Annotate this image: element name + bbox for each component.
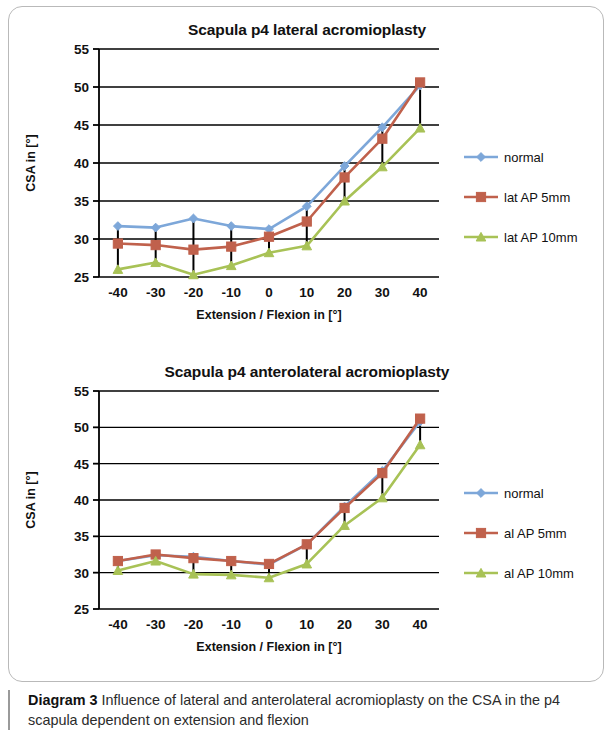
data-point-marker-square bbox=[302, 540, 311, 549]
data-point-marker-square bbox=[302, 217, 311, 226]
data-point-marker-square bbox=[189, 245, 198, 254]
data-point-marker-square bbox=[476, 528, 485, 537]
x-tick-label: -40 bbox=[108, 285, 128, 300]
x-tick-label: 20 bbox=[337, 617, 352, 632]
chart-2-plot-area: 25303540455055CSA in [°]-40-30-20-100102… bbox=[9, 381, 605, 671]
legend-label: lat AP 10mm bbox=[504, 230, 577, 245]
data-point-marker-square bbox=[416, 414, 425, 423]
x-axis-ticks: -40-30-20-10010203040 bbox=[108, 617, 427, 632]
x-axis-title: Extension / Flexion in [°] bbox=[196, 308, 341, 322]
x-axis-title: Extension / Flexion in [°] bbox=[196, 640, 341, 654]
legend: normalal AP 5mmal AP 10mm bbox=[464, 486, 574, 581]
y-tick-label: 55 bbox=[74, 42, 90, 57]
y-tick-label: 50 bbox=[74, 420, 89, 435]
series-markers bbox=[113, 414, 425, 582]
data-point-marker-diamond bbox=[189, 214, 198, 223]
data-point-marker-square bbox=[113, 239, 122, 248]
chart-lateral-acromioplasty: Scapula p4 lateral acromioplasty 2530354… bbox=[9, 9, 605, 349]
y-tick-label: 35 bbox=[74, 194, 90, 209]
x-tick-label: 20 bbox=[337, 285, 352, 300]
figure-card: Scapula p4 lateral acromioplasty 2530354… bbox=[8, 6, 604, 682]
legend-label: al AP 10mm bbox=[504, 566, 574, 581]
series-line-normal bbox=[118, 85, 420, 229]
x-tick-label: 0 bbox=[265, 285, 273, 300]
legend-label: normal bbox=[504, 486, 544, 501]
x-tick-label: -30 bbox=[146, 285, 166, 300]
x-tick-label: 30 bbox=[375, 285, 390, 300]
y-tick-label: 45 bbox=[74, 457, 90, 472]
series-line-al-ap-10mm bbox=[118, 445, 420, 578]
x-tick-label: 0 bbox=[265, 617, 273, 632]
data-point-marker-square bbox=[227, 242, 236, 251]
data-point-marker-square bbox=[264, 232, 273, 241]
y-axis-title: CSA in [°] bbox=[24, 471, 38, 528]
legend: normallat AP 5mmlat AP 10mm bbox=[464, 150, 577, 245]
data-point-marker-square bbox=[416, 78, 425, 87]
data-point-marker-diamond bbox=[477, 489, 486, 498]
x-tick-label: 40 bbox=[413, 617, 428, 632]
legend-label: normal bbox=[504, 150, 544, 165]
x-tick-label: -10 bbox=[221, 285, 241, 300]
error-bars bbox=[118, 419, 420, 578]
data-point-marker-triangle bbox=[415, 440, 425, 449]
chart-2-svg: 25303540455055CSA in [°]-40-30-20-100102… bbox=[9, 381, 605, 671]
data-point-marker-diamond bbox=[227, 222, 236, 231]
y-tick-label: 30 bbox=[74, 566, 89, 581]
data-point-marker-square bbox=[189, 554, 198, 563]
x-tick-label: -10 bbox=[221, 617, 241, 632]
data-point-marker-square bbox=[264, 559, 273, 568]
x-tick-label: 30 bbox=[375, 617, 390, 632]
data-point-marker-square bbox=[378, 134, 387, 143]
data-point-marker-diamond bbox=[477, 153, 486, 162]
x-tick-label: 10 bbox=[299, 617, 314, 632]
data-point-marker-square bbox=[113, 556, 122, 565]
x-tick-label: -20 bbox=[184, 617, 204, 632]
y-tick-label: 45 bbox=[74, 118, 90, 133]
x-tick-label: 40 bbox=[413, 285, 428, 300]
data-point-marker-square bbox=[227, 556, 236, 565]
data-point-marker-square bbox=[151, 240, 160, 249]
x-tick-label: -20 bbox=[184, 285, 204, 300]
x-axis-ticks: -40-30-20-10010203040 bbox=[108, 285, 427, 300]
data-point-marker-square bbox=[378, 469, 387, 478]
chart-anterolateral-acromioplasty: Scapula p4 anterolateral acromioplasty 2… bbox=[9, 357, 605, 675]
data-point-marker-diamond bbox=[151, 223, 160, 232]
y-axis-title: CSA in [°] bbox=[24, 134, 38, 191]
series-line-normal bbox=[118, 422, 420, 565]
figure-caption: Diagram 3 Influence of lateral and anter… bbox=[8, 690, 604, 730]
chart-2-title: Scapula p4 anterolateral acromioplasty bbox=[9, 363, 605, 381]
x-tick-label: -30 bbox=[146, 617, 166, 632]
y-tick-label: 50 bbox=[74, 80, 89, 95]
caption-label: Diagram 3 bbox=[28, 692, 98, 708]
caption-text: Influence of lateral and anterolateral a… bbox=[28, 692, 560, 728]
y-tick-label: 40 bbox=[74, 156, 89, 171]
chart-1-title: Scapula p4 lateral acromioplasty bbox=[9, 21, 605, 39]
y-tick-label: 30 bbox=[74, 232, 89, 247]
legend-label: lat AP 5mm bbox=[504, 190, 570, 205]
y-tick-label: 55 bbox=[74, 384, 90, 399]
legend-label: al AP 5mm bbox=[504, 526, 567, 541]
series-line-al-ap-5mm bbox=[118, 419, 420, 564]
data-point-marker-square bbox=[340, 173, 349, 182]
y-tick-label: 25 bbox=[74, 602, 90, 617]
chart-1-svg: 25303540455055CSA in [°]-40-30-20-100102… bbox=[9, 39, 605, 339]
y-tick-label: 40 bbox=[74, 493, 89, 508]
data-point-marker-diamond bbox=[113, 222, 122, 231]
series-lines bbox=[118, 419, 420, 578]
chart-1-plot-area: 25303540455055CSA in [°]-40-30-20-100102… bbox=[9, 39, 605, 339]
y-tick-label: 25 bbox=[74, 270, 90, 285]
series-markers bbox=[113, 78, 425, 279]
x-tick-label: 10 bbox=[299, 285, 314, 300]
data-point-marker-square bbox=[476, 192, 485, 201]
y-tick-label: 35 bbox=[74, 529, 90, 544]
y-axis-ticks: 25303540455055 bbox=[74, 42, 99, 285]
y-axis-ticks: 25303540455055 bbox=[74, 384, 99, 617]
x-tick-label: -40 bbox=[108, 617, 128, 632]
data-point-marker-square bbox=[340, 503, 349, 512]
